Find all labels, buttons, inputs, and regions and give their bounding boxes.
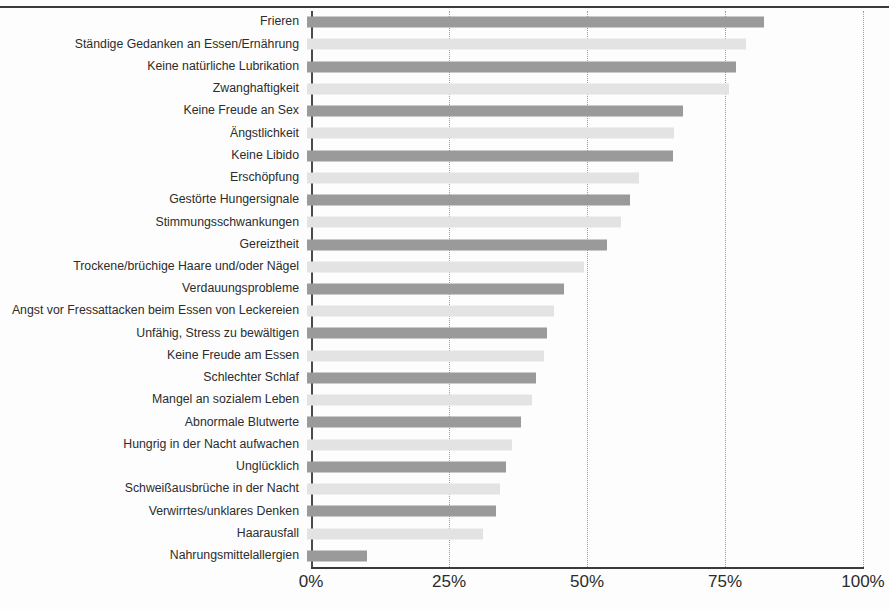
bar	[307, 150, 673, 161]
category-label: Gestörte Hungersignale	[0, 193, 305, 207]
bar-cell	[305, 278, 889, 300]
bar	[307, 372, 536, 383]
x-axis-line	[311, 567, 864, 569]
bar	[307, 283, 564, 294]
x-tick-label: 100%	[841, 572, 884, 592]
x-axis-tick-labels: 0%25%50%75%100%	[0, 572, 889, 602]
category-label: Zwanghaftigkeit	[0, 82, 305, 96]
category-label: Mangel an sozialem Leben	[0, 393, 305, 407]
bar-cell	[305, 55, 889, 77]
bar-row: Gestörte Hungersignale	[0, 189, 889, 211]
category-label: Angst vor Fressattacken beim Essen von L…	[0, 304, 305, 318]
bar	[307, 83, 729, 94]
bar-row: Ängstlichkeit	[0, 122, 889, 144]
category-label: Schlechter Schlaf	[0, 371, 305, 385]
category-label: Keine Freude am Essen	[0, 349, 305, 363]
category-label: Keine Libido	[0, 149, 305, 163]
bar-row: Verdauungsprobleme	[0, 278, 889, 300]
bar	[307, 39, 746, 50]
bar-row: Unglücklich	[0, 456, 889, 478]
bar-cell	[305, 256, 889, 278]
category-label: Ängstlichkeit	[0, 127, 305, 141]
bar-row: Erschöpfung	[0, 167, 889, 189]
category-label: Schweißausbrüche in der Nacht	[0, 482, 305, 496]
category-label: Unfähig, Stress zu bewältigen	[0, 327, 305, 341]
bar	[307, 461, 506, 472]
category-label: Verwirrtes/unklares Denken	[0, 505, 305, 519]
bar	[307, 217, 621, 228]
bar-row: Hungrig in der Nacht aufwachen	[0, 434, 889, 456]
bar	[307, 261, 584, 272]
bar-cell	[305, 100, 889, 122]
bar-cell	[305, 411, 889, 433]
bar-cell	[305, 211, 889, 233]
bar-cell	[305, 345, 889, 367]
bar-cell	[305, 11, 889, 33]
category-label: Unglücklich	[0, 460, 305, 474]
bar-cell	[305, 367, 889, 389]
bar	[307, 550, 367, 561]
bar-row: Keine Freude am Essen	[0, 345, 889, 367]
bar	[307, 239, 607, 250]
bar	[307, 17, 764, 28]
bar-row: Gereiztheit	[0, 233, 889, 255]
bar-cell	[305, 500, 889, 522]
category-label: Keine Freude an Sex	[0, 104, 305, 118]
bar	[307, 328, 547, 339]
category-label: Verdauungsprobleme	[0, 282, 305, 296]
bar-cell	[305, 434, 889, 456]
bar	[307, 195, 630, 206]
bar-row: Frieren	[0, 11, 889, 33]
bar-row: Schlechter Schlaf	[0, 367, 889, 389]
bar-cell	[305, 122, 889, 144]
category-label: Frieren	[0, 15, 305, 29]
x-tick-label: 0%	[299, 572, 324, 592]
bar-row: Keine natürliche Lubrikation	[0, 55, 889, 77]
bar-cell	[305, 167, 889, 189]
bar-chart: FrierenStändige Gedanken an Essen/Ernähr…	[0, 0, 889, 609]
bar	[307, 528, 483, 539]
bar-row: Unfähig, Stress zu bewältigen	[0, 322, 889, 344]
bar-cell	[305, 523, 889, 545]
bar-cell	[305, 389, 889, 411]
bar-row: Nahrungsmittelallergien	[0, 545, 889, 567]
bar-cell	[305, 478, 889, 500]
top-rule	[0, 6, 889, 8]
bar-row: Trockene/brüchige Haare und/oder Nägel	[0, 256, 889, 278]
bar-cell	[305, 300, 889, 322]
x-tick-label: 50%	[570, 572, 604, 592]
bar-cell	[305, 322, 889, 344]
bar-row: Zwanghaftigkeit	[0, 78, 889, 100]
bar	[307, 128, 674, 139]
category-label: Stimmungsschwankungen	[0, 216, 305, 230]
bar-row: Schweißausbrüche in der Nacht	[0, 478, 889, 500]
bar-row: Haarausfall	[0, 523, 889, 545]
bar	[307, 61, 736, 72]
bar	[307, 306, 554, 317]
bar	[307, 484, 500, 495]
bar-row: Verwirrtes/unklares Denken	[0, 500, 889, 522]
bar-cell	[305, 233, 889, 255]
bar-cell	[305, 456, 889, 478]
category-label: Ständige Gedanken an Essen/Ernährung	[0, 38, 305, 52]
bar	[307, 395, 532, 406]
bar-row: Angst vor Fressattacken beim Essen von L…	[0, 300, 889, 322]
x-tick-label: 25%	[432, 572, 466, 592]
category-label: Nahrungsmittelallergien	[0, 549, 305, 563]
category-label: Erschöpfung	[0, 171, 305, 185]
bar-row: Mangel an sozialem Leben	[0, 389, 889, 411]
category-label: Abnormale Blutwerte	[0, 416, 305, 430]
bar-row: Ständige Gedanken an Essen/Ernährung	[0, 33, 889, 55]
category-label: Trockene/brüchige Haare und/oder Nägel	[0, 260, 305, 274]
category-label: Keine natürliche Lubrikation	[0, 60, 305, 74]
bar-row: Abnormale Blutwerte	[0, 411, 889, 433]
category-label: Haarausfall	[0, 527, 305, 541]
bar	[307, 350, 544, 361]
bar	[307, 439, 512, 450]
bar-cell	[305, 78, 889, 100]
bar	[307, 417, 521, 428]
bar-rows: FrierenStändige Gedanken an Essen/Ernähr…	[0, 11, 889, 567]
bar-row: Keine Libido	[0, 144, 889, 166]
bar-cell	[305, 33, 889, 55]
bar	[307, 172, 639, 183]
